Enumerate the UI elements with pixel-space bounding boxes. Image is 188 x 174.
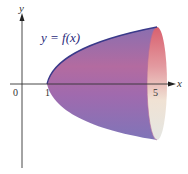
y-axis-label: y: [19, 2, 24, 14]
x-axis-label: x: [177, 77, 182, 89]
curve-label: y = f(x): [41, 30, 80, 46]
tick-label-1: 1: [45, 87, 50, 98]
x-axis-arrow-icon: [168, 82, 176, 87]
diagram-canvas: [0, 0, 188, 174]
solid-of-revolution-diagram: y x 0 1 5 y = f(x): [0, 0, 188, 174]
tick-label-0: 0: [13, 87, 18, 98]
y-axis-arrow-icon: [20, 13, 25, 21]
tick-label-5: 5: [153, 87, 158, 98]
